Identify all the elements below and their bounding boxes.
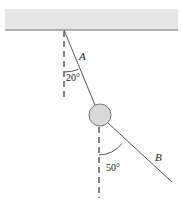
mass-ball <box>89 104 111 126</box>
string-a <box>64 30 95 105</box>
label-string-a: A <box>78 50 86 62</box>
label-string-b: B <box>155 151 162 163</box>
angle-arc-50 <box>99 144 122 156</box>
string-b <box>108 123 172 182</box>
label-angle-20: 20° <box>66 72 80 83</box>
pendulum-diagram: A 20° 50° B <box>0 0 182 200</box>
ceiling <box>5 9 178 30</box>
label-angle-50: 50° <box>106 162 120 173</box>
